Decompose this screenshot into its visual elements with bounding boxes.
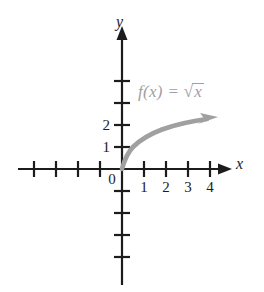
sqrt-curve <box>122 119 207 169</box>
x-axis-label: x <box>236 156 243 172</box>
y-tick-label-2: 2 <box>98 118 110 133</box>
equals-sign: = <box>167 82 179 101</box>
function-graph-figure: y x 0 1 2 3 4 1 2 f(x) = √x <box>0 0 264 292</box>
graph-canvas <box>0 0 264 292</box>
x-tick-label-2: 2 <box>159 180 173 195</box>
radical-expression: √x <box>184 82 204 100</box>
function-equation-label: f(x) = √x <box>138 82 203 100</box>
x-tick-label-1: 1 <box>137 180 151 195</box>
y-tick-label-1: 1 <box>98 140 110 155</box>
radicand: x <box>193 83 203 100</box>
y-axis-label: y <box>116 14 123 30</box>
x-tick-label-3: 3 <box>181 180 195 195</box>
origin-label: 0 <box>105 172 119 187</box>
radical-sign-icon: √ <box>184 83 194 100</box>
x-axis-arrowhead <box>218 164 232 175</box>
function-argument: (x) <box>143 82 163 101</box>
x-tick-label-4: 4 <box>203 180 217 195</box>
